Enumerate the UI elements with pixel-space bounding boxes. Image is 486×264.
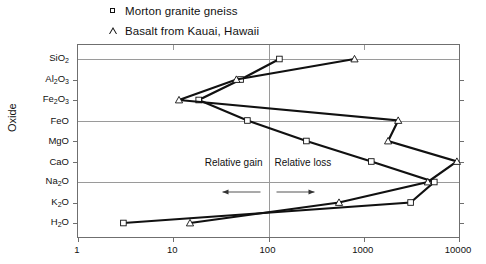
legend-label: Basalt from Kauai, Hawaii: [125, 25, 259, 37]
y-axis-tick-right: [459, 223, 464, 224]
y-axis-tick-label: CaO: [49, 155, 69, 166]
y-axis-tick-label: H2O: [51, 216, 69, 229]
square-marker-icon: [108, 5, 120, 17]
y-axis-tick-right: [459, 100, 464, 101]
y-axis-tick-label: K2O: [51, 195, 69, 208]
x-axis-tick-label: 10000: [445, 244, 471, 255]
legend-item-basalt-kauai-hawaii: Basalt from Kauai, Hawaii: [108, 22, 259, 39]
chart-legend: Morton granite gneiss Basalt from Kauai,…: [108, 2, 259, 42]
x-axis-tick-label: 1000: [352, 244, 373, 255]
y-axis-title: Oxide: [6, 103, 18, 132]
legend-item-morton-granite-gneiss: Morton granite gneiss: [108, 2, 259, 19]
y-axis-tick-label: SiO2: [49, 52, 69, 65]
y-axis-tick-label: FeO: [51, 114, 69, 125]
relative-change-arrows: [78, 45, 459, 237]
relative-loss-arrow: [277, 189, 315, 194]
x-axis-tick-label: 100: [260, 244, 276, 255]
triangle-marker-icon: [108, 25, 120, 37]
y-axis-tick-label: Fe2O3: [43, 93, 69, 106]
y-axis-tick-label: Al2O3: [45, 72, 69, 85]
x-axis-tick-label: 10: [167, 244, 178, 255]
y-axis-tick-label: Na2O: [46, 175, 69, 188]
y-axis-tick-right: [459, 141, 464, 142]
x-axis-tick: [173, 237, 174, 242]
x-axis-tick: [364, 237, 365, 242]
plot-area: Relative gain Relative loss: [77, 44, 460, 238]
x-axis-tick: [459, 237, 460, 242]
x-axis-tick: [269, 237, 270, 242]
y-axis-tick-label: MgO: [48, 135, 69, 146]
y-axis-tick-right: [459, 80, 464, 81]
y-axis-tick-right: [459, 203, 464, 204]
x-axis-tick-label: 1: [74, 244, 79, 255]
chart-root: Morton granite gneiss Basalt from Kauai,…: [0, 0, 486, 264]
relative-gain-arrow: [223, 189, 261, 194]
x-axis-tick: [78, 237, 79, 242]
legend-label: Morton granite gneiss: [125, 5, 238, 17]
